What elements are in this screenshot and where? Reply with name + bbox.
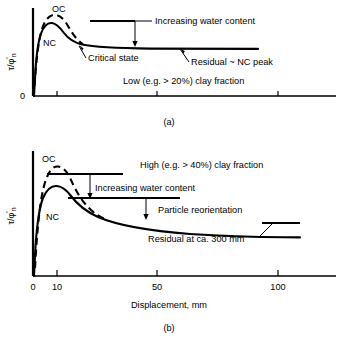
panel-b-x-axis-label: Displacement, mm xyxy=(131,300,207,310)
panel-a-y-axis-label: τ/φ′n xyxy=(5,53,17,70)
panel-a-annotation-increasing-water-content: Increasing water content xyxy=(155,16,256,26)
panel-b-series-label-oc: OC xyxy=(42,154,56,164)
figure-shear-stress-displacement: τ/φ′n 0 OC NC Increasing water content C… xyxy=(0,0,338,338)
panel-a-water-content-arrowhead xyxy=(132,41,137,47)
panel-a-svg: τ/φ′n 0 OC NC Increasing water content C… xyxy=(0,0,338,130)
chart-panel-a: τ/φ′n 0 OC NC Increasing water content C… xyxy=(0,0,338,130)
panel-a-origin-label: 0 xyxy=(20,91,25,101)
panel-b-svg: τ/φ′n 0 10 50 100 Displacement, mm OC NC… xyxy=(0,128,338,338)
panel-b-annotation-residual-300mm: Residual at ca. 300 mm xyxy=(148,234,245,244)
panel-b-annotation-clay-fraction: High (e.g. > 40%) clay fraction xyxy=(140,160,263,170)
panel-b-residual-leader xyxy=(258,224,272,238)
panel-a-residual-leader xyxy=(180,49,189,62)
panel-b-series-label-nc: NC xyxy=(46,212,59,222)
panel-b-xticklabel-10: 10 xyxy=(52,282,62,292)
panel-a-caption: (a) xyxy=(163,117,174,127)
panel-b-annotation-increasing-water-content: Increasing water content xyxy=(95,183,196,193)
panel-b-particle-reorientation-arrowhead xyxy=(143,214,148,220)
panel-b-curve-nc xyxy=(34,186,300,276)
panel-b-xticklabel-50: 50 xyxy=(152,282,162,292)
panel-b-y-axis-label: τ/φ′n xyxy=(5,207,17,224)
panel-b-xticklabel-100: 100 xyxy=(270,282,285,292)
panel-a-series-label-nc: NC xyxy=(43,38,56,48)
panel-a-series-label-oc: OC xyxy=(52,4,66,14)
panel-a-annotation-clay-fraction: Low (e.g. > 20%) clay fraction xyxy=(123,76,244,86)
chart-panel-b: τ/φ′n 0 10 50 100 Displacement, mm OC NC… xyxy=(0,128,338,338)
panel-a-annotation-residual-nc-peak: Residual ~ NC peak xyxy=(191,57,273,67)
panel-b-annotation-particle-reorientation: Particle reorientation xyxy=(158,205,242,215)
panel-b-caption: (b) xyxy=(163,323,174,333)
panel-b-xticklabel-0: 0 xyxy=(30,282,35,292)
panel-a-annotation-critical-state: Critical state xyxy=(88,53,139,63)
